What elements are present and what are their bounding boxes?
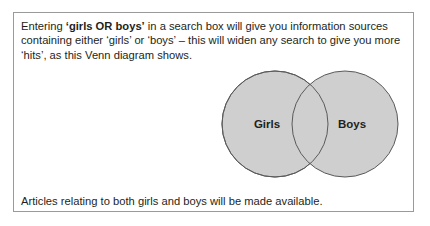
venn-label-girls: Girls — [254, 118, 280, 130]
search-query: ‘girls OR boys’ — [66, 20, 145, 32]
venn-diagram: Girls Boys — [220, 69, 402, 181]
venn-label-boys: Boys — [338, 118, 366, 130]
outro-paragraph: Articles relating to both girls and boys… — [21, 194, 323, 208]
intro-prefix: Entering — [21, 20, 66, 32]
intro-paragraph: Entering ‘girls OR boys’ in a search box… — [21, 19, 409, 62]
